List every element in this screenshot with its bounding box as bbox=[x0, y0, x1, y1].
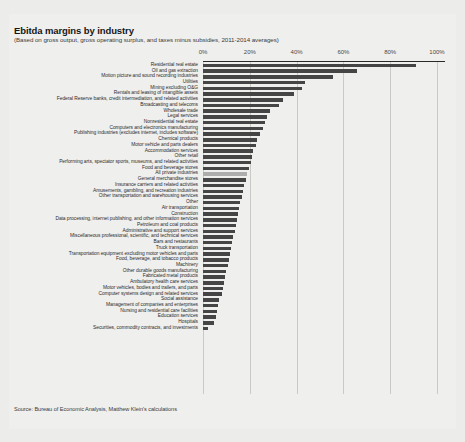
category-label: Motor vehicles, bodies and trailers, and… bbox=[103, 285, 198, 290]
x-tick-label-20: 20% bbox=[244, 49, 256, 55]
category-label: Truck transportation bbox=[156, 245, 198, 250]
category-label: Other retail bbox=[174, 153, 198, 158]
bar bbox=[203, 224, 236, 228]
category-label: Rentals and leasing of intangible assets bbox=[114, 90, 198, 95]
category-label: Management of companies and enterprises bbox=[106, 302, 198, 307]
category-label: Federal Reserve banks, credit intermedia… bbox=[57, 96, 198, 101]
category-label: Other transportation and warehousing ser… bbox=[99, 193, 198, 198]
category-label: Publishing industries (excludes internet… bbox=[74, 130, 198, 135]
category-label: Legal services bbox=[167, 113, 198, 118]
bar-rows: Residential real estateOil and gas extra… bbox=[0, 63, 465, 332]
category-label: Computer systems design and related serv… bbox=[99, 291, 198, 296]
category-label: Air transportation bbox=[162, 205, 198, 210]
bar bbox=[203, 121, 265, 125]
bar bbox=[203, 230, 235, 234]
bar bbox=[203, 287, 223, 291]
category-label: Residential real estate bbox=[151, 62, 198, 67]
category-label: Data processing, internet publishing, an… bbox=[55, 216, 198, 221]
bar-row: Securities, commodity contracts, and inv… bbox=[0, 326, 465, 332]
plot-area: 0%20%40%60%80%100% Residential real esta… bbox=[0, 49, 465, 394]
category-label: Chemical products bbox=[158, 136, 198, 141]
category-label: Accommodation services bbox=[145, 148, 198, 153]
bar bbox=[203, 235, 233, 239]
bar bbox=[203, 149, 253, 153]
category-label: Mining excluding O&G bbox=[150, 85, 198, 90]
category-label: Transportation equipment excluding motor… bbox=[69, 251, 198, 256]
bar bbox=[203, 190, 243, 194]
category-label: Hospitals bbox=[178, 319, 198, 324]
bar bbox=[203, 298, 219, 302]
x-tick-label-60: 60% bbox=[337, 49, 349, 55]
bar bbox=[203, 155, 252, 159]
category-label: Motor vehicle and parts dealers bbox=[131, 142, 198, 147]
category-label: Food and beverage stores bbox=[142, 165, 198, 170]
x-tick-label-80: 80% bbox=[384, 49, 396, 55]
bar bbox=[203, 64, 416, 68]
bar bbox=[203, 104, 279, 108]
chart-subtitle: (Based on gross output, gross operating … bbox=[14, 36, 279, 43]
bar bbox=[203, 75, 333, 79]
category-label: Utilities bbox=[183, 79, 198, 84]
category-label: General merchandise stores bbox=[138, 176, 198, 181]
bar bbox=[203, 195, 242, 199]
bar bbox=[203, 281, 224, 285]
bar bbox=[203, 270, 226, 274]
bar bbox=[203, 132, 260, 136]
bar bbox=[203, 304, 218, 308]
category-label: Oil and gas extraction bbox=[152, 68, 198, 73]
bar bbox=[203, 264, 228, 268]
category-label: Bars and restaurants bbox=[154, 239, 198, 244]
bar bbox=[203, 218, 237, 222]
category-label: Computers and electronics manufacturing bbox=[109, 125, 198, 130]
bar bbox=[203, 258, 229, 262]
bar bbox=[203, 184, 244, 188]
category-label: Social assistance bbox=[161, 296, 198, 301]
bar bbox=[203, 207, 239, 211]
category-label: Petroleum and coal products bbox=[137, 222, 198, 227]
bar bbox=[203, 315, 216, 319]
bar bbox=[203, 321, 214, 325]
bar bbox=[203, 167, 249, 171]
bar bbox=[203, 241, 232, 245]
category-label: Ambulatory health care services bbox=[130, 279, 198, 284]
bar bbox=[203, 292, 222, 296]
category-label: Administrative and support services bbox=[123, 228, 198, 233]
category-label: Food, beverage, and tobacco products bbox=[116, 256, 198, 261]
category-label: Broadcasting and telecoms bbox=[140, 102, 198, 107]
bar bbox=[203, 92, 294, 96]
category-label: Miscellaneous professional, scientific, … bbox=[70, 233, 198, 238]
category-label: Nursing and residential care facilities bbox=[120, 308, 198, 313]
bar bbox=[203, 81, 305, 85]
x-axis-line bbox=[203, 61, 445, 62]
category-label: Other bbox=[186, 199, 198, 204]
bar bbox=[203, 275, 225, 279]
category-label: Wholesale trade bbox=[163, 108, 198, 113]
bar bbox=[203, 109, 270, 113]
x-tick-label-0: 0% bbox=[199, 49, 208, 55]
bar bbox=[203, 201, 240, 205]
category-label: All private industries bbox=[155, 170, 198, 175]
x-tick-label-40: 40% bbox=[291, 49, 303, 55]
bar bbox=[203, 247, 231, 251]
bar bbox=[203, 138, 257, 142]
bar bbox=[203, 87, 302, 91]
bar bbox=[203, 115, 267, 119]
bar bbox=[203, 178, 246, 182]
category-label: Motion picture and sound recording indus… bbox=[101, 73, 198, 78]
bar bbox=[203, 327, 208, 331]
bar bbox=[203, 161, 251, 165]
category-label: Nonresidential real estate bbox=[144, 119, 198, 124]
category-label: Amusements, gambling, and recreation ind… bbox=[93, 188, 198, 193]
bar bbox=[203, 69, 357, 73]
category-label: Other durable goods manufacturing bbox=[123, 268, 198, 273]
bar bbox=[203, 310, 217, 314]
chart-page: Ebitda margins by industry (Based on gro… bbox=[0, 0, 465, 442]
category-label: Performing arts, spectator sports, museu… bbox=[59, 159, 198, 164]
bar bbox=[203, 252, 230, 256]
bar bbox=[203, 172, 247, 176]
category-label: Machinery bbox=[176, 262, 198, 267]
bar bbox=[203, 98, 283, 102]
chart-title: Ebitda margins by industry bbox=[14, 25, 134, 36]
x-tick-label-100: 100% bbox=[429, 49, 444, 55]
bar bbox=[203, 144, 256, 148]
